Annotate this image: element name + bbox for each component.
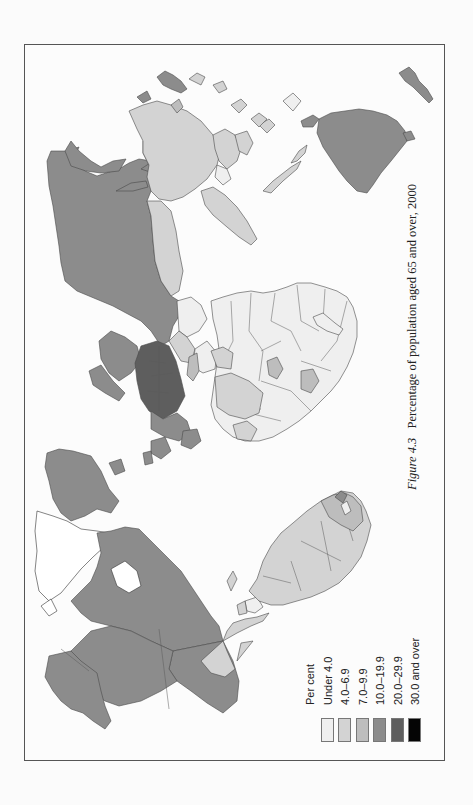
legend-swatch-7-9.9	[356, 718, 369, 742]
legend-swatch-under-4	[321, 718, 334, 742]
map-legend: Per cent Under 4.0 4.0–6.9 7.0–9.9 10.0–…	[296, 600, 426, 750]
legend-label-2: 7.0–9.9	[357, 668, 369, 705]
region-mexico	[223, 613, 269, 661]
legend-label-4: 20.0–29.9	[392, 656, 404, 705]
figure-number: Figure 4.3	[405, 438, 419, 490]
region-new-zealand	[399, 67, 433, 103]
legend-label-3: 10.0–19.9	[374, 656, 386, 705]
region-africa	[211, 283, 357, 441]
region-japan	[157, 71, 187, 93]
figure-caption: Figure 4.3 Percentage of population aged…	[405, 184, 420, 490]
legend-label-0: Under 4.0	[322, 657, 334, 705]
figure-title: Percentage of population aged 65 and ove…	[405, 184, 419, 429]
legend-title: Per cent	[304, 664, 316, 705]
legend-swatch-20-29.9	[391, 718, 404, 742]
legend-label-5: 30.0 and over	[409, 638, 421, 705]
legend-swatch-4-6.9	[338, 718, 351, 742]
legend-label-1: 4.0–6.9	[339, 668, 351, 705]
region-usa	[169, 641, 239, 713]
region-greenland	[45, 449, 119, 521]
legend-swatch-10-19.9	[373, 718, 386, 742]
legend-swatch-30-over	[408, 718, 421, 742]
region-india	[201, 187, 257, 245]
region-australia	[317, 109, 407, 193]
